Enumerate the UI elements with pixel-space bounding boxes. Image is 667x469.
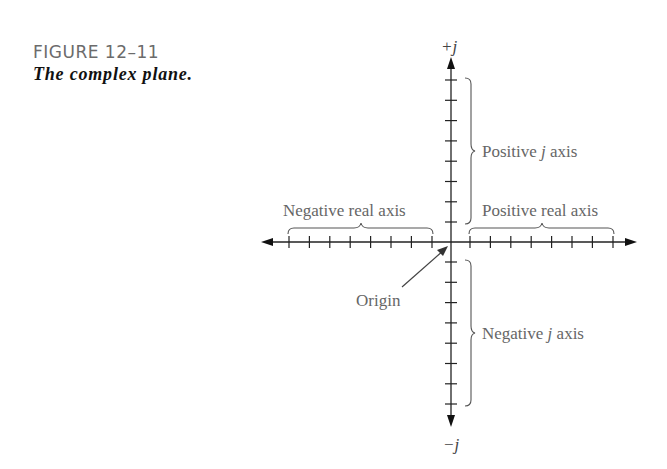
negative-j-brace [465,260,475,406]
positive-j-axis-label: Positive j axis [482,142,577,161]
positive-j-end-label: +j [441,37,457,56]
origin-pointer [402,250,444,287]
j-axis-down-arrow-icon [447,415,455,427]
origin-label: Origin [356,291,401,310]
negative-j-end-label: −j [443,435,459,454]
negative-real-axis-label: Negative real axis [283,201,406,220]
positive-real-axis-label: Positive real axis [482,201,598,220]
j-axis-up-arrow-icon [447,57,455,69]
real-axis-right-arrow-icon [625,238,637,246]
positive-real-brace [469,223,614,234]
real-axis-left-arrow-icon [261,238,273,246]
positive-j-brace [465,78,475,224]
complex-plane-diagram: +j −j Negative real axis Positive real a… [0,0,667,469]
negative-real-brace [288,223,433,234]
negative-j-axis-label: Negative j axis [482,324,584,343]
